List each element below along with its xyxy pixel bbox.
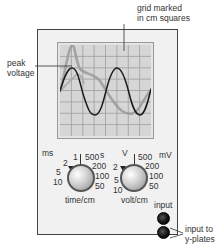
volt-scale-200: 200 (145, 161, 159, 171)
time-scale-10: 10 (53, 177, 62, 187)
volt-per-cm-knob[interactable] (120, 164, 148, 192)
time-knob-tick (80, 154, 81, 164)
volt-scale-100: 100 (149, 171, 163, 181)
input-to-annotation-line2: y-plates (185, 234, 215, 244)
volt-scale-50: 50 (149, 181, 158, 191)
time-scale-5: 5 (56, 167, 61, 177)
volt-scale-10: 10 (113, 185, 122, 195)
input-to-annotation-line1: input to (185, 224, 213, 234)
volt-scale-2: 2 (113, 162, 118, 172)
input-leader-1 (170, 228, 183, 233)
time-scale-200: 200 (92, 161, 106, 171)
time-scale-100: 100 (95, 171, 109, 181)
volt-knob-tick (134, 154, 135, 164)
annotation-leaders (0, 0, 216, 248)
time-unit-ms: ms (42, 148, 53, 158)
time-unit-s: s (100, 150, 104, 160)
volt-scale-5: 5 (114, 175, 119, 185)
input-socket-1[interactable] (157, 212, 170, 225)
input-socket-2[interactable] (157, 226, 170, 239)
volt-unit-v: V (122, 148, 128, 158)
time-per-cm-knob[interactable] (67, 164, 95, 192)
time-knob-label: time/cm (65, 195, 95, 205)
volt-unit-mv: mV (159, 150, 172, 160)
input-leader-2 (170, 234, 183, 238)
time-scale-1: 1 (73, 152, 78, 162)
time-scale-50: 50 (95, 181, 104, 191)
input-label: input (154, 200, 172, 210)
volt-knob-label: volt/cm (121, 195, 148, 205)
